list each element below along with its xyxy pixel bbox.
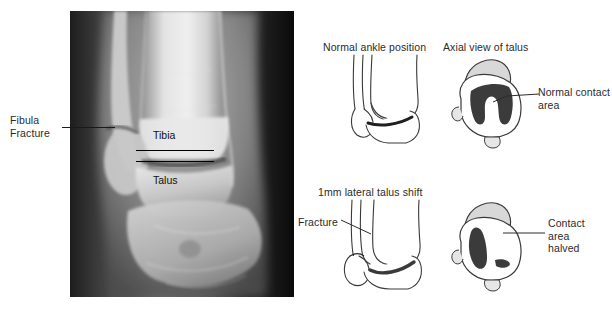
callout-fracture: Fracture: [298, 216, 338, 229]
leader-line-normal-contact: [493, 94, 539, 102]
talus-inferior-process: [484, 137, 500, 148]
callout-fibula-fracture: Fibula Fracture: [10, 114, 50, 139]
diagram-shifted-ankle: [330, 200, 440, 290]
shifted-lateral-malleolus: [344, 256, 369, 286]
callout-contact-area-halved: Contact area halved: [548, 217, 585, 255]
heading-talus-shift: 1mm lateral talus shift: [318, 186, 422, 198]
callout-normal-contact-area: Normal contact area: [538, 86, 610, 111]
xray-label-talus: Talus: [153, 174, 178, 186]
heading-normal-ankle: Normal ankle position: [323, 41, 426, 53]
ankle-radiograph: Tibia Talus: [70, 11, 294, 297]
measure-line-lower: [136, 161, 214, 162]
callout-fibula-fracture-leader: [62, 127, 115, 128]
talus-inferior-process-shifted: [484, 280, 500, 291]
measure-line-upper: [136, 150, 214, 151]
leader-normal-contact: [493, 88, 539, 104]
shifted-tibia-outline: [373, 200, 421, 265]
diagram-normal-ankle: [330, 55, 440, 145]
heading-axial-view: Axial view of talus: [443, 41, 528, 53]
diagram-axial-talus-shifted: [447, 198, 537, 293]
radiograph-graphic: [70, 11, 294, 297]
leader-fracture: [341, 218, 373, 238]
xray-label-tibia: Tibia: [153, 129, 175, 141]
sinus-tarsi: [179, 240, 201, 258]
figure-canvas: Tibia Talus Fibula Fracture Normal ankle…: [0, 0, 612, 312]
leader-contact-halved: [503, 228, 545, 238]
leader-line-fracture: [341, 220, 371, 234]
